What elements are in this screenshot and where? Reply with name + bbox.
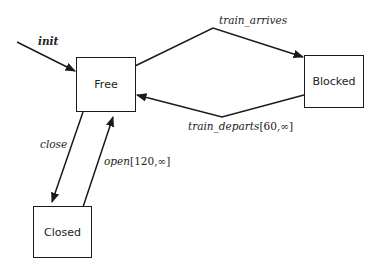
- train-departs-event: train_departs: [188, 120, 259, 132]
- init-label: init: [38, 35, 58, 47]
- open-guard: [120,∞]: [130, 155, 170, 167]
- state-free-label: Free: [94, 78, 117, 91]
- close-arrow: [52, 112, 83, 202]
- state-closed-label: Closed: [44, 226, 81, 239]
- state-free: Free: [76, 57, 136, 112]
- train-arrives-label: train_arrives: [219, 14, 287, 26]
- train-arrives-arrow: [135, 28, 303, 66]
- init-event: init: [38, 35, 58, 47]
- state-closed: Closed: [33, 206, 92, 258]
- train-departs-guard: [60,∞]: [259, 120, 293, 132]
- open-label: open[120,∞]: [104, 155, 170, 167]
- train-departs-arrow: [137, 95, 304, 117]
- train-arrives-event: train_arrives: [219, 14, 287, 26]
- open-event: open: [104, 155, 130, 167]
- state-blocked: Blocked: [304, 55, 364, 108]
- close-label: close: [40, 138, 67, 150]
- train-departs-label: train_departs[60,∞]: [188, 120, 293, 132]
- close-event: close: [40, 138, 67, 150]
- state-blocked-label: Blocked: [312, 75, 355, 88]
